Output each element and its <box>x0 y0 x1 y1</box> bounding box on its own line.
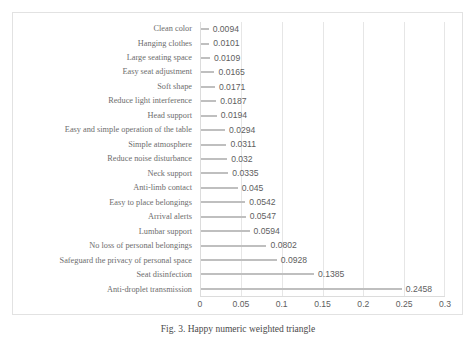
bar-value-label: 0.0165 <box>218 68 244 77</box>
bar <box>201 187 238 189</box>
x-tick-label: 0 <box>198 299 203 309</box>
bar-row: 0.0594 <box>201 224 444 238</box>
bar-row: 0.0109 <box>201 51 444 65</box>
figure-caption: Fig. 3. Happy numeric weighted triangle <box>0 324 476 334</box>
bar-row: 0.032 <box>201 152 444 166</box>
bar-value-label: 0.0311 <box>230 140 256 149</box>
bar-row: 0.0542 <box>201 195 444 209</box>
x-tick-label: 0.2 <box>357 299 369 309</box>
bar <box>201 144 226 146</box>
bar-value-label: 0.0542 <box>249 198 275 207</box>
category-label: Seat disinfection <box>13 268 197 282</box>
category-label: Anti-limb contact <box>13 181 197 195</box>
category-label: Reduce light interference <box>13 94 197 108</box>
bar-value-label: 0.0171 <box>219 83 245 92</box>
bar <box>201 71 214 73</box>
category-label: Head support <box>13 109 197 123</box>
bar-row: 0.0802 <box>201 238 444 252</box>
bar <box>201 172 228 174</box>
bar <box>201 43 209 45</box>
category-label: Reduce noise disturbance <box>13 152 197 166</box>
category-label: Easy to place belongings <box>13 196 197 210</box>
bar-row: 0.0294 <box>201 123 444 137</box>
category-label: Easy seat adjustment <box>13 65 197 79</box>
bar-value-label: 0.0594 <box>254 227 280 236</box>
bar-value-label: 0.0109 <box>214 54 240 63</box>
bar-chart: Clean colorHanging clothesLarge seating … <box>13 13 462 314</box>
bar <box>201 201 245 203</box>
x-tick-label: 0.3 <box>439 299 451 309</box>
bar <box>201 259 277 261</box>
x-tick-label: 0.05 <box>232 299 249 309</box>
bar-row: 0.0094 <box>201 22 444 36</box>
category-label: Safeguard the privacy of personal space <box>13 254 197 268</box>
bar-row: 0.1385 <box>201 267 444 281</box>
category-label: Large seating space <box>13 51 197 65</box>
bar-value-label: 0.0094 <box>213 25 239 34</box>
category-label: Simple atmosphere <box>13 138 197 152</box>
category-label: Anti-droplet transmission <box>13 282 197 296</box>
bar-value-label: 0.032 <box>231 155 253 164</box>
bar <box>201 115 217 117</box>
x-axis-tick-labels: 00.050.10.150.20.250.3 <box>200 299 445 315</box>
bar <box>201 245 266 247</box>
category-axis-labels: Clean colorHanging clothesLarge seating … <box>13 22 197 297</box>
bar-value-label: 0.0547 <box>250 212 276 221</box>
bar <box>201 28 209 30</box>
x-tick-label: 0.15 <box>314 299 331 309</box>
x-tick-label: 0.25 <box>396 299 413 309</box>
bar-row: 0.0928 <box>201 253 444 267</box>
category-label: Lumbar support <box>13 225 197 239</box>
bar-value-label: 0.0335 <box>232 169 258 178</box>
bar-rows: 0.00940.01010.01090.01650.01710.01870.01… <box>201 22 444 296</box>
category-label: Clean color <box>13 22 197 36</box>
bar-value-label: 0.0101 <box>213 39 239 48</box>
bar-value-label: 0.1385 <box>318 270 344 279</box>
bar <box>201 129 225 131</box>
bar-row: 0.0101 <box>201 36 444 50</box>
bar <box>201 100 216 102</box>
category-label: Easy and simple operation of the table <box>13 123 197 137</box>
bar <box>201 158 227 160</box>
bar-row: 0.2458 <box>201 282 444 296</box>
bar <box>201 288 402 290</box>
x-tick-label: 0.1 <box>276 299 288 309</box>
category-label: Neck support <box>13 167 197 181</box>
bar-row: 0.0194 <box>201 109 444 123</box>
bar-row: 0.0547 <box>201 209 444 223</box>
category-label: Soft shape <box>13 80 197 94</box>
bar-row: 0.0335 <box>201 166 444 180</box>
bar <box>201 216 246 218</box>
bar-value-label: 0.0802 <box>270 241 296 250</box>
bar-row: 0.0165 <box>201 65 444 79</box>
bar-value-label: 0.0294 <box>229 126 255 135</box>
gridline <box>444 22 445 296</box>
bar <box>201 57 210 59</box>
bar <box>201 86 215 88</box>
bar <box>201 273 314 275</box>
bar-row: 0.0171 <box>201 80 444 94</box>
bar-row: 0.045 <box>201 181 444 195</box>
bar-value-label: 0.0194 <box>221 111 247 120</box>
bar-value-label: 0.0928 <box>281 256 307 265</box>
category-label: No loss of personal belongings <box>13 239 197 253</box>
plot-area: 0.00940.01010.01090.01650.01710.01870.01… <box>200 22 445 297</box>
category-label: Hanging clothes <box>13 36 197 50</box>
category-label: Arrival alerts <box>13 210 197 224</box>
bar-row: 0.0311 <box>201 137 444 151</box>
bar-value-label: 0.045 <box>242 184 264 193</box>
bar-value-label: 0.0187 <box>220 97 246 106</box>
bar <box>201 230 250 232</box>
bar-value-label: 0.2458 <box>406 285 432 294</box>
bar-row: 0.0187 <box>201 94 444 108</box>
